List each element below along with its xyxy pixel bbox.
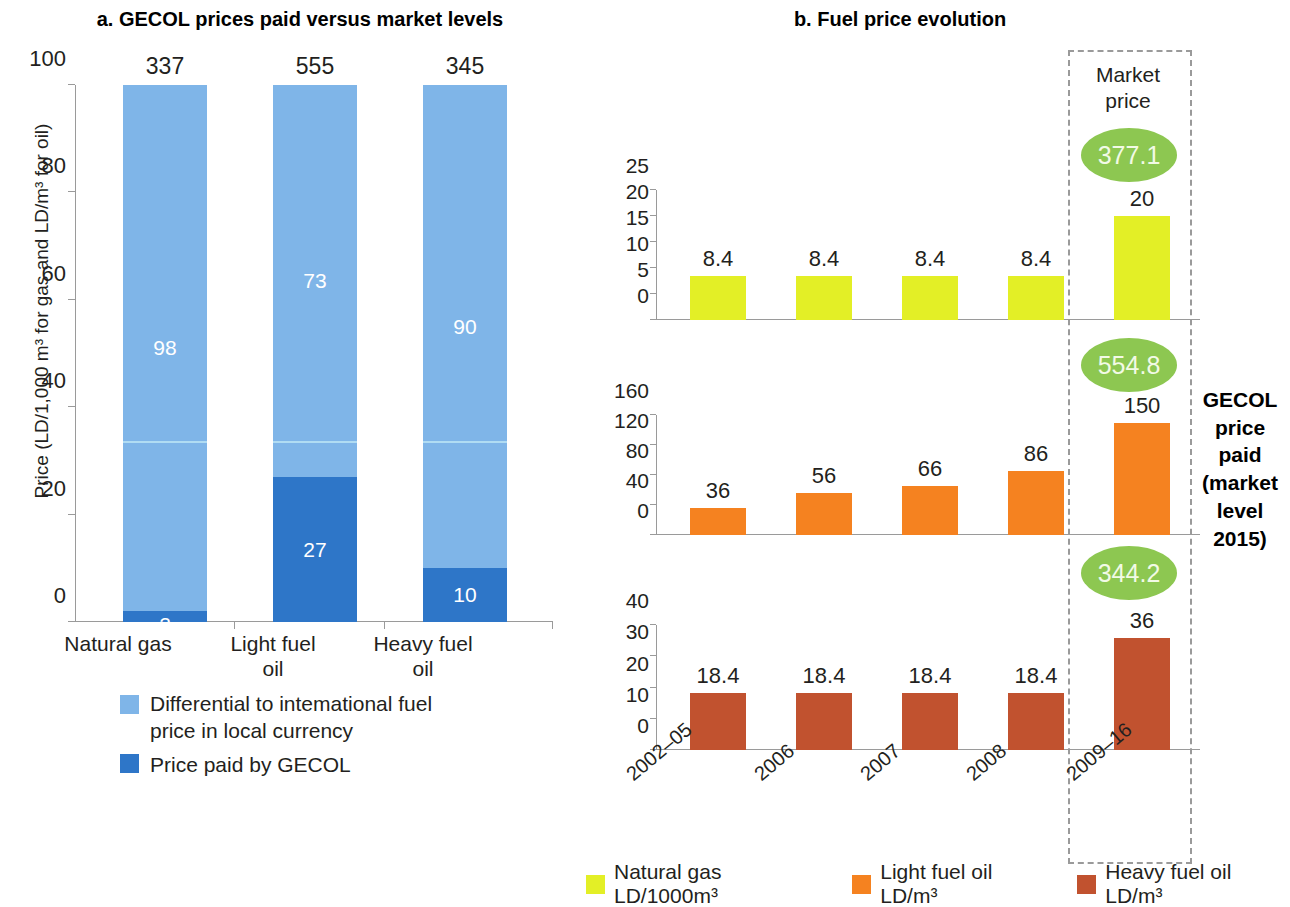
chart-light-fuel-oil-y-axis <box>656 415 657 535</box>
bar-natural-gas-2008[interactable]: 8.4 <box>1008 276 1064 320</box>
bar-heavy-fuel-oil-2008[interactable]: 18.4 <box>1008 693 1064 751</box>
bar-light-fuel-oil-2007[interactable]: 66 <box>902 486 958 536</box>
chart-heavy-fuel-oil-ytick-0: 0 <box>637 714 649 738</box>
market-price-value-natural-gas: 377.1 <box>1098 141 1161 170</box>
panel-a-bar-heavy-fuel-oil-paid: 10 <box>423 568 507 622</box>
bar-natural-gas-2009-16[interactable]: 20 <box>1114 216 1170 320</box>
panel-a-ytick-100: 100 <box>29 46 66 72</box>
panel-a-plot-area: 0 20 40 60 80 100 2 98 337 27 73 <box>75 85 553 622</box>
panel-b-legend-label-natural-gas: Natural gas LD/1000m³ <box>614 860 826 907</box>
bar-light-fuel-oil-2006[interactable]: 56 <box>796 493 852 535</box>
market-price-value-heavy-fuel-oil: 344.2 <box>1098 559 1161 588</box>
bar-natural-gas-2007[interactable]: 8.4 <box>902 276 958 320</box>
gecol-note-line2: price <box>1215 416 1265 439</box>
panel-a-bar-natural-gas-diff: 98 <box>123 85 207 611</box>
chart-light-fuel-oil-ytick-mark-0 <box>650 534 656 535</box>
panel-a-bar-natural-gas-total-label: 337 <box>123 53 207 80</box>
chart-natural-gas-plot: 0 5 10 15 20 25 8.4 8.4 8.4 8.4 20 <box>656 190 1200 320</box>
bar-heavy-fuel-oil-2007[interactable]: 18.4 <box>902 693 958 751</box>
panel-a-ytick-mark-20 <box>68 514 75 515</box>
panel-a-legend-label-differential: Differential to intemational fuel price … <box>150 690 432 745</box>
panel-a-gridline-light-fuel-oil <box>273 441 357 443</box>
bar-label-natural-gas-2009-16: 20 <box>1114 186 1170 212</box>
bar-natural-gas-2006[interactable]: 8.4 <box>796 276 852 320</box>
bar-label-light-fuel-oil-2007: 66 <box>902 456 958 482</box>
panel-b-legend-label-light-fuel-oil: Light fuel oil LD/m³ <box>880 860 1051 907</box>
chart-heavy-fuel-oil-ytick-30: 30 <box>626 620 649 644</box>
panel-a-legend-item-differential[interactable]: Differential to intemational fuel price … <box>120 690 432 745</box>
chart-heavy-fuel-oil-ytick-mark-20 <box>650 687 656 688</box>
panel-a-title: a. GECOL prices paid versus market level… <box>0 8 600 31</box>
chart-light-fuel-oil-ytick-80: 80 <box>626 439 649 463</box>
chart-natural-gas-ytick-mark-10 <box>650 267 656 268</box>
panel-a-category-label-light-fuel-oil: Light fuel oil <box>198 632 348 682</box>
panel-a-xtick-sep-3 <box>552 622 553 629</box>
chart-natural-gas-ytick-10: 10 <box>626 232 649 256</box>
bar-label-natural-gas-2006: 8.4 <box>796 246 852 272</box>
panel-b-legend-item-light-fuel-oil[interactable]: Light fuel oil LD/m³ <box>852 860 1051 907</box>
panel-a-category-label-natural-gas: Natural gas <box>43 632 193 657</box>
panel-a-legend-item-price-paid[interactable]: Price paid by GECOL <box>120 751 432 778</box>
panel-a-ytick-mark-60 <box>68 299 75 300</box>
gecol-price-paid-note: GECOL price paid (market level 2015) <box>1194 386 1286 552</box>
panel-a-category-heavy-fuel-oil-line1: Heavy fuel <box>373 632 472 655</box>
chart-natural-gas-ytick-0: 0 <box>637 284 649 308</box>
bar-label-natural-gas-2008: 8.4 <box>1008 246 1064 272</box>
legend-swatch-icon-light-fuel-oil <box>852 875 871 894</box>
panel-b-legend-item-natural-gas[interactable]: Natural gas LD/1000m³ <box>586 860 826 907</box>
panel-a-bar-light-fuel-oil[interactable]: 27 73 555 <box>273 85 357 622</box>
bar-label-heavy-fuel-oil-2006: 18.4 <box>796 663 852 689</box>
legend-swatch-icon-natural-gas <box>586 875 605 894</box>
bar-heavy-fuel-oil-2006[interactable]: 18.4 <box>796 693 852 751</box>
panel-a-bar-natural-gas-diff-label: 98 <box>123 336 207 360</box>
chart-light-fuel-oil-ytick-0: 0 <box>637 499 649 523</box>
panel-b-legend-item-heavy-fuel-oil[interactable]: Heavy fuel oil LD/m³ <box>1077 860 1290 907</box>
panel-a-bar-heavy-fuel-oil[interactable]: 10 90 345 <box>423 85 507 622</box>
bar-label-heavy-fuel-oil-2008: 18.4 <box>1008 663 1064 689</box>
chart-heavy-fuel-oil-ytick-20: 20 <box>626 652 649 676</box>
gecol-note-line3: paid <box>1218 443 1261 466</box>
panel-a-bar-heavy-fuel-oil-diff: 90 <box>423 85 507 568</box>
panel-a-bar-light-fuel-oil-diff: 73 <box>273 85 357 477</box>
market-price-bubble-heavy-fuel-oil: 344.2 <box>1081 546 1177 600</box>
bar-label-natural-gas-2002-05: 8.4 <box>690 246 746 272</box>
bar-label-light-fuel-oil-2008: 86 <box>1008 441 1064 467</box>
panel-a-category-natural-gas-line1: Natural gas <box>64 632 171 655</box>
chart-light-fuel-oil: 554.8 0 40 80 120 160 36 56 66 86 150 <box>600 415 1200 535</box>
panel-a-ytick-mark-100 <box>68 84 75 85</box>
panel-a-ytick-0: 0 <box>54 583 66 609</box>
bar-light-fuel-oil-2008[interactable]: 86 <box>1008 471 1064 536</box>
market-price-label: Market price <box>1068 62 1188 115</box>
bar-label-natural-gas-2007: 8.4 <box>902 246 958 272</box>
chart-natural-gas-ytick-mark-20 <box>650 215 656 216</box>
panel-a-ytick-mark-0 <box>68 621 75 622</box>
legend-swatch-icon-heavy-fuel-oil <box>1077 875 1096 894</box>
chart-natural-gas-ytick-20: 20 <box>626 180 649 204</box>
panel-a-category-light-fuel-oil-line2: oil <box>262 657 283 680</box>
bar-heavy-fuel-oil-2002-05[interactable]: 18.4 <box>690 693 746 751</box>
chart-heavy-fuel-oil-y-axis <box>656 625 657 750</box>
panel-a-bar-light-fuel-oil-paid-label: 27 <box>273 538 357 562</box>
market-price-value-light-fuel-oil: 554.8 <box>1098 351 1161 380</box>
panel-a-bar-natural-gas[interactable]: 2 98 337 <box>123 85 207 622</box>
panel-a-xtick-sep-2 <box>384 622 385 629</box>
market-price-bubble-light-fuel-oil: 554.8 <box>1081 338 1177 392</box>
panel-a-ytick-mark-80 <box>68 191 75 192</box>
panel-a-category-heavy-fuel-oil-line2: oil <box>412 657 433 680</box>
bar-natural-gas-2002-05[interactable]: 8.4 <box>690 276 746 320</box>
panel-a-ytick-mark-40 <box>68 406 75 407</box>
panel-a-ytick-80: 80 <box>42 153 66 179</box>
chart-natural-gas-ytick-15: 15 <box>626 206 649 230</box>
chart-natural-gas-ytick-5: 5 <box>637 258 649 282</box>
chart-heavy-fuel-oil-ytick-mark-40 <box>650 624 656 625</box>
panel-a-y-axis <box>75 85 76 622</box>
chart-light-fuel-oil-ytick-mark-160 <box>650 414 656 415</box>
panel-a-legend: Differential to intemational fuel price … <box>120 690 432 784</box>
bar-light-fuel-oil-2009-16[interactable]: 150 <box>1114 423 1170 536</box>
chart-natural-gas-ytick-mark-5 <box>650 293 656 294</box>
bar-label-light-fuel-oil-2009-16: 150 <box>1114 393 1170 419</box>
bar-light-fuel-oil-2002-05[interactable]: 36 <box>690 508 746 535</box>
chart-heavy-fuel-oil-ytick-40: 40 <box>626 589 649 613</box>
panel-a-bar-light-fuel-oil-paid: 27 <box>273 477 357 622</box>
panel-a-legend-differential-line1: Differential to intemational fuel <box>150 692 432 715</box>
